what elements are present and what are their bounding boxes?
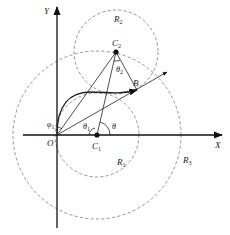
r1-label: R1 xyxy=(116,157,126,168)
theta1-label: θ1 xyxy=(83,122,90,132)
y-axis-label: Y xyxy=(44,6,50,16)
theta-label: θ xyxy=(112,122,116,131)
origin-label: O xyxy=(47,138,54,148)
geometry-diagram: Y X O C1 C2 B R1 R2 R3 φ1 θ1 θ θ2 xyxy=(0,0,230,235)
r3-label: R3 xyxy=(182,155,192,166)
point-c1 xyxy=(94,132,99,137)
b-label: B xyxy=(133,78,139,88)
point-c2 xyxy=(113,49,118,54)
c2-label: C2 xyxy=(112,38,121,49)
r2-label: R2 xyxy=(113,14,123,25)
x-axis-label: X xyxy=(214,140,221,150)
angle-arc-theta xyxy=(100,122,110,135)
angle-arc-theta2 xyxy=(114,60,120,61)
theta2-label: θ2 xyxy=(116,65,123,75)
c1-label: C1 xyxy=(92,141,101,152)
phi-label: φ1 xyxy=(47,120,54,130)
